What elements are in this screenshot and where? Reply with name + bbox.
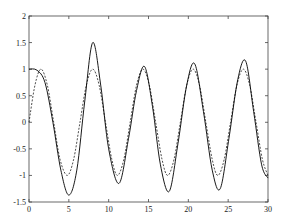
y-tick-label: 0.5 — [16, 92, 26, 101]
y-tick-label: -0.5 — [13, 145, 26, 154]
y-tick-label: 0 — [22, 118, 26, 127]
plot-area — [29, 16, 268, 202]
solid-series-line — [29, 42, 268, 195]
y-tick-label: 1.5 — [16, 39, 26, 48]
x-tick-label: 5 — [67, 205, 71, 214]
y-tick-label: -1.5 — [13, 198, 26, 207]
y-tick-label: 1 — [22, 65, 26, 74]
x-tick-label: 30 — [264, 205, 272, 214]
x-tick-label: 25 — [224, 205, 232, 214]
y-tick-label: 2 — [22, 12, 26, 21]
y-tick-label: -1 — [19, 171, 26, 180]
x-tick-label: 15 — [145, 205, 153, 214]
y-axis: -1.5-1-0.500.511.52 — [13, 12, 268, 207]
x-tick-label: 0 — [27, 205, 31, 214]
line-chart: 051015202530 -1.5-1-0.500.511.52 — [0, 0, 284, 223]
x-tick-label: 20 — [184, 205, 192, 214]
series-layer — [29, 42, 268, 195]
dashed-series-line — [29, 69, 268, 175]
x-axis: 051015202530 — [27, 16, 272, 214]
x-tick-label: 10 — [105, 205, 113, 214]
